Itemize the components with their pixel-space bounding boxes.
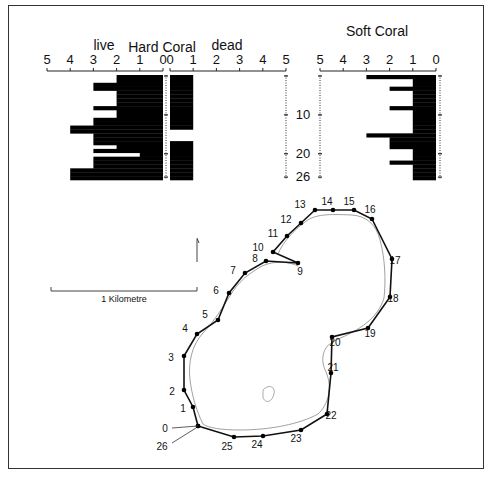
tick-label: 1 — [190, 52, 197, 67]
bar — [117, 110, 163, 114]
site-8: 8 — [252, 253, 268, 264]
live-bars — [70, 75, 163, 180]
bar — [93, 133, 163, 137]
bar — [70, 129, 163, 133]
site-21: 21 — [327, 362, 339, 375]
tick-label: 0 — [166, 52, 173, 67]
survey-sites: 0123456789101112131415161718192021222324… — [156, 196, 401, 452]
bar — [70, 176, 163, 180]
bar — [117, 98, 163, 102]
site-label: 9 — [297, 266, 303, 277]
bar — [390, 137, 436, 141]
site-0-26-leaders — [172, 426, 198, 443]
tick-label: 5 — [43, 52, 50, 67]
depth-tick-label: 26 — [296, 169, 310, 184]
bar — [413, 110, 436, 114]
site-label: 15 — [343, 196, 355, 207]
site-label: 25 — [221, 441, 233, 452]
site-10: 10 — [252, 242, 275, 254]
bar — [117, 102, 163, 106]
depth-tick-label: 10 — [296, 107, 310, 122]
tick-label: 2 — [113, 52, 120, 67]
site-marker-icon — [271, 250, 276, 255]
bar — [170, 79, 193, 83]
bar — [170, 102, 193, 106]
tick-label: 5 — [282, 52, 289, 67]
bar — [93, 137, 163, 141]
bar — [170, 110, 193, 114]
dead-bars — [170, 75, 193, 180]
site-marker-icon — [299, 221, 304, 226]
site-label: 0 — [162, 423, 168, 434]
tick-label: 0 — [432, 52, 439, 67]
bar — [70, 168, 163, 172]
site-label: 11 — [268, 228, 279, 239]
bar — [170, 118, 193, 122]
bar — [93, 106, 163, 110]
site-6: 6 — [213, 285, 231, 296]
bar — [70, 126, 163, 130]
bar — [93, 83, 163, 87]
site-11: 11 — [268, 228, 289, 239]
site-marker-icon — [182, 388, 187, 393]
site-4: 4 — [182, 323, 199, 336]
bar — [117, 91, 163, 95]
bar — [70, 172, 163, 176]
site-label: 13 — [294, 199, 306, 210]
tick-label: 4 — [67, 52, 74, 67]
site-marker-icon — [285, 234, 290, 239]
tick-label: 3 — [236, 52, 243, 67]
bar — [117, 94, 163, 98]
bar — [170, 122, 193, 126]
site-label: 16 — [364, 204, 376, 215]
bar — [413, 122, 436, 126]
site-label: 19 — [364, 328, 376, 339]
site-18: 18 — [387, 293, 399, 304]
bar — [170, 176, 193, 180]
bar — [413, 153, 436, 157]
depth-tick-label: 20 — [296, 146, 310, 161]
bar — [170, 157, 193, 161]
site-marker-icon — [191, 405, 196, 410]
bar — [170, 126, 193, 130]
site-marker-icon — [243, 271, 248, 276]
site-label: 6 — [213, 285, 219, 296]
site-label: 17 — [389, 255, 401, 266]
lagoon-islet — [263, 387, 274, 402]
site-5: 5 — [202, 309, 220, 322]
site-marker-icon — [331, 208, 336, 213]
bar — [170, 91, 193, 95]
site-17: 17 — [389, 255, 401, 266]
depth-axes: 102026 — [164, 75, 442, 184]
bar — [170, 153, 193, 157]
scale-bar-label: 1 Kilometre — [101, 294, 147, 304]
bar — [413, 176, 436, 180]
site-label: 10 — [252, 242, 264, 253]
bar — [413, 79, 436, 83]
bar — [413, 98, 436, 102]
site-label: 14 — [321, 196, 333, 207]
site-label: 23 — [290, 433, 302, 444]
dead-label: dead — [211, 37, 242, 53]
tick-label: 2 — [213, 52, 220, 67]
site-label: 21 — [327, 362, 339, 373]
site-label: 3 — [168, 352, 174, 363]
bar — [93, 157, 163, 161]
site-marker-icon — [264, 259, 269, 264]
live-label: live — [93, 37, 114, 53]
bar — [413, 114, 436, 118]
north-arrow-icon — [197, 238, 199, 262]
bar — [93, 141, 163, 145]
site-marker-icon — [261, 434, 266, 439]
bar — [170, 172, 193, 176]
bar — [170, 145, 193, 149]
bar — [366, 75, 436, 79]
site-marker-icon — [313, 208, 318, 213]
site-label: 12 — [280, 214, 292, 225]
bar — [117, 114, 163, 118]
bar — [93, 161, 163, 165]
bar — [117, 79, 163, 83]
site-marker-icon — [216, 318, 221, 323]
bar — [413, 149, 436, 153]
bar — [390, 106, 436, 110]
